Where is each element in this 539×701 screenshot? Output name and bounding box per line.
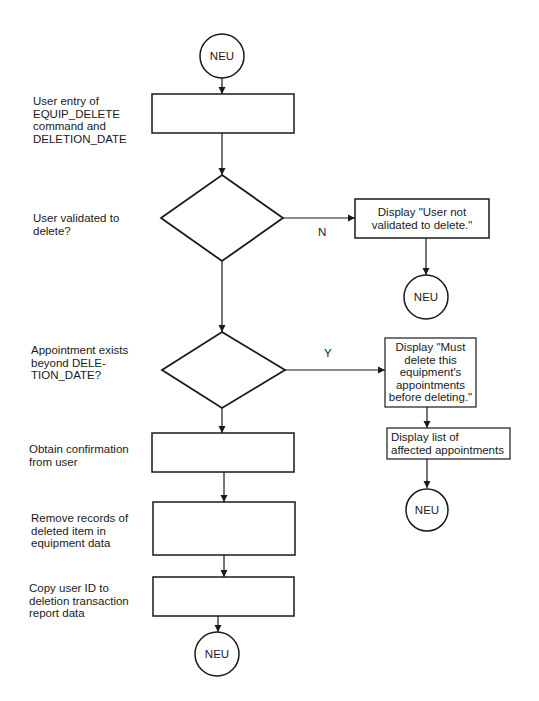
display-text-affected-list: Display list of affected appointments [391,431,512,456]
display-text-must-delete: Display "Must delete this equipment's ap… [385,341,476,404]
decision-user-validated [161,175,283,261]
process-box-copy-user-id [153,577,294,616]
step-label-user-entry: User entry of EQUIP_DELETE command and D… [33,95,127,145]
step-label-appointment-exists: Appointment exists beyond DELE- TION_DAT… [31,344,128,382]
step-label-obtain-confirmation: Obtain confirmation from user [29,443,129,468]
process-box-obtain-confirmation [152,433,294,472]
decision-appointment-exists [162,332,285,408]
end-terminal-appointments-label: NEU [405,503,449,517]
process-box-remove-records [153,502,295,555]
branch-label-yes: Y [324,347,332,359]
step-label-remove-records: Remove records of deleted item in equipm… [31,512,128,550]
branch-label-no: N [318,226,326,238]
end-terminal-not-validated-label: NEU [404,290,448,304]
step-label-copy-user-id: Copy user ID to deletion transaction rep… [29,582,129,620]
end-terminal-main-label: NEU [195,647,239,661]
start-terminal-label: NEU [200,49,244,63]
step-label-user-validated: User validated to delete? [33,212,119,237]
process-box-user-entry [152,94,294,133]
display-text-not-validated: Display "User not validated to delete." [355,206,489,231]
